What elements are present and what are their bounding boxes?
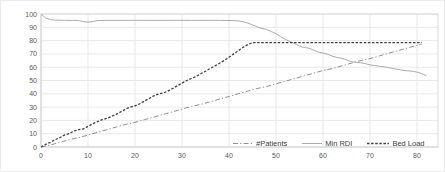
svg-text:20: 20 <box>29 117 37 124</box>
legend-item-min-rdi: Min RDI <box>302 139 352 148</box>
svg-text:0: 0 <box>39 152 43 159</box>
svg-text:40: 40 <box>225 152 233 159</box>
svg-text:80: 80 <box>29 37 37 44</box>
svg-text:100: 100 <box>25 11 37 18</box>
svg-text:10: 10 <box>29 130 37 137</box>
legend-item-patients: #Patients <box>233 139 287 148</box>
chart-legend: #Patients Min RDI Bed Load <box>233 137 425 150</box>
legend-label-bed-load: Bed Load <box>392 139 424 148</box>
svg-text:30: 30 <box>29 104 37 111</box>
svg-text:80: 80 <box>413 152 421 159</box>
svg-text:70: 70 <box>366 152 374 159</box>
svg-text:60: 60 <box>319 152 327 159</box>
svg-text:10: 10 <box>84 152 92 159</box>
min-rdi-line-sample-icon <box>302 140 322 147</box>
svg-text:40: 40 <box>29 90 37 97</box>
svg-text:30: 30 <box>178 152 186 159</box>
svg-text:20: 20 <box>131 152 139 159</box>
svg-text:90: 90 <box>29 24 37 31</box>
svg-text:60: 60 <box>29 64 37 71</box>
legend-label-patients: #Patients <box>256 139 287 148</box>
svg-text:70: 70 <box>29 50 37 57</box>
legend-label-min-rdi: Min RDI <box>325 139 352 148</box>
svg-text:50: 50 <box>272 152 280 159</box>
legend-item-bed-load: Bed Load <box>367 139 424 148</box>
patients-line-sample-icon <box>233 140 253 147</box>
chart-figure: 010203040506070809010001020304050607080 … <box>0 0 445 172</box>
svg-text:50: 50 <box>29 77 37 84</box>
svg-text:0: 0 <box>33 144 37 151</box>
bed-load-line-sample-icon <box>367 140 389 147</box>
